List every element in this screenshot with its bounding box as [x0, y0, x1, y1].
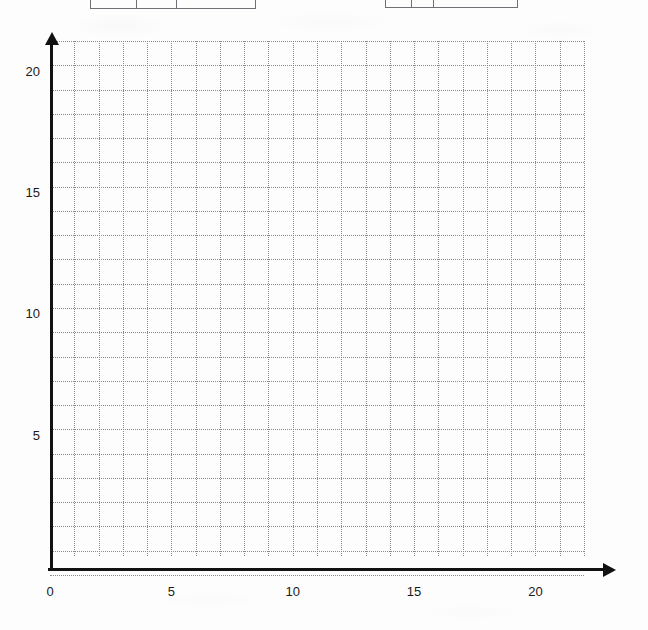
grid-line-horizontal	[50, 90, 584, 91]
grid-line-horizontal	[50, 551, 584, 552]
grid-line-horizontal	[50, 284, 584, 285]
grid-line-horizontal	[50, 429, 584, 430]
y-tick-label: 20	[6, 63, 40, 78]
x-tick-label: 10	[285, 584, 299, 599]
y-tick-label: 15	[6, 184, 40, 199]
grid-line-horizontal	[50, 381, 584, 382]
grid-line-horizontal	[50, 332, 584, 333]
grid-line-horizontal	[50, 405, 584, 406]
grid-line-vertical	[584, 41, 585, 556]
grid-line-horizontal	[50, 357, 584, 358]
grid-line-horizontal	[50, 41, 584, 42]
grid-line-horizontal	[50, 259, 584, 260]
x-tick-label: 20	[528, 584, 542, 599]
worksheet-page: 5101520 05101520	[0, 0, 648, 630]
grid-line-horizontal	[50, 308, 584, 309]
grid-line-horizontal	[50, 478, 584, 479]
x-tick-label: 0	[46, 584, 53, 599]
grid-line-horizontal	[50, 235, 584, 236]
y-tick-label: 5	[6, 427, 40, 442]
grid-line-horizontal	[50, 65, 584, 66]
grid-line-horizontal	[50, 162, 584, 163]
grid-line-horizontal	[50, 575, 584, 576]
y-tick-label: 10	[6, 306, 40, 321]
grid-line-horizontal	[50, 502, 584, 503]
x-tick-label: 5	[168, 584, 175, 599]
grid-line-horizontal	[50, 187, 584, 188]
x-axis-line	[48, 568, 604, 571]
grid-line-horizontal	[50, 138, 584, 139]
grid-line-horizontal	[50, 454, 584, 455]
x-tick-label: 15	[407, 584, 421, 599]
grid-line-horizontal	[50, 114, 584, 115]
coordinate-grid-plot: 5101520 05101520	[0, 0, 648, 630]
y-axis-line	[50, 44, 53, 570]
grid-line-horizontal	[50, 211, 584, 212]
x-axis-arrow-icon	[603, 563, 616, 577]
grid-line-horizontal	[50, 526, 584, 527]
y-axis-arrow-icon	[45, 32, 59, 45]
grid-lines	[50, 41, 584, 556]
